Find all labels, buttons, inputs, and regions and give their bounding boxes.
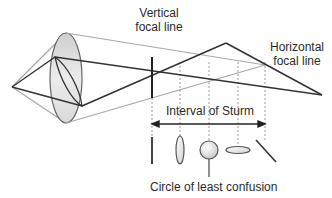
lens <box>50 33 82 123</box>
section-vertical-ellipse <box>176 136 184 164</box>
section-horizontal-ellipse <box>226 147 250 154</box>
horizontal-focal-line-label: Horizontal focal line <box>262 40 332 68</box>
circle-of-least-confusion-label: Circle of least confusion <box>150 180 277 194</box>
section-circle <box>200 141 218 159</box>
section-diagonal-line <box>256 140 276 162</box>
interval-of-sturm-label: Interval of Sturm <box>166 104 254 118</box>
vertical-focal-line-label: Vertical focal line <box>128 6 190 34</box>
cross-sections <box>152 136 276 177</box>
